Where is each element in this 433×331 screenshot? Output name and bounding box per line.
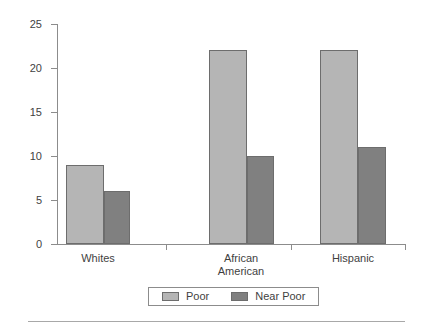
legend-entry-near-poor: Near Poor: [231, 291, 305, 302]
bottom-divider: [28, 321, 405, 322]
y-tick-20: 20: [51, 68, 57, 69]
y-tick-15: 15: [51, 112, 57, 113]
x-tick-end: [405, 244, 406, 250]
legend-label-poor: Poor: [186, 291, 209, 302]
near-poor-swatch-icon: [231, 292, 248, 301]
y-tick-label-5: 5: [36, 195, 42, 206]
legend-entry-poor: Poor: [162, 291, 209, 302]
bar-hispanic-near-poor: [358, 147, 386, 244]
poor-swatch-icon: [162, 292, 179, 301]
x-category-label-african-american: African American: [218, 252, 264, 278]
bar-african-american-near-poor: [247, 156, 274, 244]
y-tick-0: 0: [51, 244, 57, 245]
y-tick-5: 5: [51, 200, 57, 201]
chart-legend: Poor Near Poor: [148, 287, 319, 306]
y-tick-label-0: 0: [36, 239, 42, 250]
plot-area: 0 5 10 15 20 25: [57, 24, 405, 244]
x-tick-separator-1: [166, 244, 167, 250]
y-tick-label-25: 25: [30, 19, 42, 30]
bar-african-american-poor: [209, 50, 247, 244]
x-category-label-hispanic: Hispanic: [332, 252, 374, 265]
y-tick-label-15: 15: [30, 107, 42, 118]
bar-chart-figure: 0 5 10 15 20 25 Whites African American …: [0, 0, 433, 331]
x-axis-line: [57, 244, 406, 245]
y-tick-label-20: 20: [30, 63, 42, 74]
bar-hispanic-poor: [320, 50, 358, 244]
bar-whites-near-poor: [104, 191, 130, 244]
y-tick-10: 10: [51, 156, 57, 157]
legend-label-near-poor: Near Poor: [255, 291, 305, 302]
bar-whites-poor: [66, 165, 104, 244]
y-tick-label-10: 10: [30, 151, 42, 162]
y-tick-25: 25: [51, 24, 57, 25]
x-tick-separator-2: [291, 244, 292, 250]
x-category-label-whites: Whites: [81, 252, 115, 265]
